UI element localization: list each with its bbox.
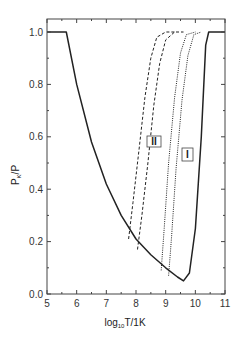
x-tick-label: 8: [133, 298, 139, 309]
x-axis-label: log10T/1K: [104, 317, 145, 329]
y-tick-label: 0.8: [29, 79, 43, 90]
label-I: I: [182, 148, 193, 161]
x-tick-label: 10: [190, 298, 202, 309]
series-line: [47, 32, 225, 281]
x-tick-label: 6: [74, 298, 80, 309]
svg-text:II: II: [151, 136, 157, 147]
y-axis-label: PK/P: [10, 165, 22, 185]
chart: 5678910110.00.20.40.60.81.0 II I log10T/…: [0, 0, 242, 347]
x-tick-label: 5: [44, 298, 50, 309]
y-tick-label: 0.0: [29, 289, 43, 300]
y-tick-label: 0.4: [29, 184, 43, 195]
plot-frame: [47, 19, 225, 294]
y-tick-label: 0.6: [29, 131, 43, 142]
x-tick-label: 7: [104, 298, 110, 309]
y-tick-label: 1.0: [29, 27, 43, 38]
label-II: II: [147, 136, 161, 147]
y-tick-label: 0.2: [29, 236, 43, 247]
x-tick-label: 11: [220, 298, 231, 309]
svg-text:I: I: [186, 149, 189, 160]
x-tick-label: 9: [163, 298, 169, 309]
